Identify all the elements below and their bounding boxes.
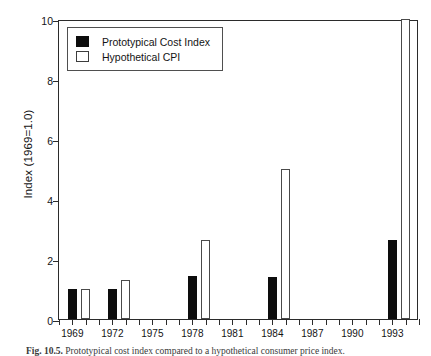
legend-item: Prototypical Cost Index: [76, 34, 210, 49]
x-axis-tick: [272, 319, 273, 325]
x-axis-tick: [206, 319, 207, 325]
x-axis-tick: [166, 319, 167, 325]
legend-item: Hypothetical CPI: [76, 49, 210, 64]
x-axis-tick: [232, 319, 233, 325]
x-axis-tick: [139, 319, 140, 325]
x-axis-tick: [219, 319, 220, 325]
x-axis-tick-label: 1987: [301, 328, 323, 339]
x-axis-tick: [72, 319, 73, 325]
x-axis-tick: [299, 319, 300, 325]
x-axis-tick: [59, 319, 60, 325]
bar: [188, 276, 197, 320]
y-axis-title: Index (1969=1.0): [22, 74, 34, 234]
x-axis-tick: [339, 319, 340, 325]
bar: [81, 289, 90, 319]
y-axis-tick: [53, 81, 59, 82]
x-axis-tick: [112, 319, 113, 325]
x-axis-tick: [366, 319, 367, 325]
x-axis-tick: [86, 319, 87, 325]
y-axis-tick-label: 0: [47, 315, 53, 327]
legend: Prototypical Cost Index Hypothetical CPI: [67, 27, 223, 71]
x-axis-tick-label: 1969: [61, 328, 83, 339]
x-axis-tick-label: 1984: [261, 328, 283, 339]
y-axis-tick-label: 4: [47, 195, 53, 207]
bar: [68, 289, 77, 319]
x-axis-tick: [126, 319, 127, 325]
y-axis-tick: [53, 21, 59, 22]
figure-container: Index (1969=1.0) 0246810 196919721975197…: [0, 0, 431, 356]
y-axis-tick: [53, 141, 59, 142]
y-axis-tick: [53, 201, 59, 202]
x-axis-tick-label: 1975: [141, 328, 163, 339]
x-axis-tick: [179, 319, 180, 325]
x-axis-tick-label: 1981: [221, 328, 243, 339]
figure-number: Fig. 10.5.: [26, 346, 63, 356]
x-axis-tick: [246, 319, 247, 325]
x-axis-tick: [152, 319, 153, 325]
x-axis-tick: [99, 319, 100, 325]
bar: [268, 277, 277, 319]
bar: [201, 240, 210, 320]
x-axis-tick: [326, 319, 327, 325]
x-axis-tick: [312, 319, 313, 325]
bar: [388, 240, 397, 320]
x-axis-tick: [259, 319, 260, 325]
y-axis-tick: [53, 261, 59, 262]
x-axis-tick: [192, 319, 193, 325]
y-axis-tick-label: 8: [47, 75, 53, 87]
bar: [108, 289, 117, 319]
legend-label: Prototypical Cost Index: [102, 36, 210, 48]
x-axis-tick: [352, 319, 353, 325]
bar: [121, 280, 130, 319]
x-axis-tick: [406, 319, 407, 325]
y-axis-tick-label: 6: [47, 135, 53, 147]
figure-caption: Fig. 10.5. Prototypical cost index compa…: [26, 346, 426, 356]
x-axis-tick: [379, 319, 380, 325]
x-axis-tick-label: 1972: [101, 328, 123, 339]
x-axis-tick-label: 1990: [341, 328, 363, 339]
bar: [401, 19, 410, 319]
x-axis-tick: [392, 319, 393, 325]
plot-area: 0246810 19691972197519781981198419871990…: [58, 20, 418, 320]
x-axis-tick-label: 1978: [181, 328, 203, 339]
legend-label: Hypothetical CPI: [102, 51, 180, 63]
figure-caption-text: Prototypical cost index compared to a hy…: [65, 346, 345, 356]
bar: [281, 169, 290, 319]
x-axis-tick: [286, 319, 287, 325]
y-axis-tick-label: 10: [41, 15, 53, 27]
y-axis-tick-label: 2: [47, 255, 53, 267]
legend-swatch-prototypical-cost-index-icon: [76, 36, 89, 47]
x-axis-tick-label: 1993: [381, 328, 403, 339]
x-axis-tick: [419, 319, 420, 325]
legend-swatch-hypothetical-cpi-icon: [76, 51, 89, 62]
